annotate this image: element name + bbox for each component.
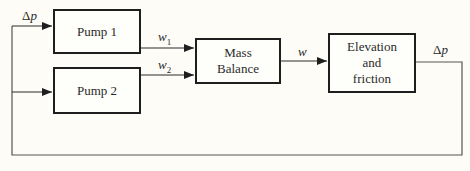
mass-balance-block: Mass Balance — [195, 38, 281, 84]
signal-w1: w1 — [158, 29, 171, 47]
signal-delta-p-out: Δp — [433, 42, 448, 58]
pump1-block: Pump 1 — [53, 9, 141, 54]
signal-w2: w2 — [158, 57, 171, 75]
signal-w: w — [298, 44, 307, 60]
elevation-friction-block: Elevation and friction — [328, 33, 416, 93]
elevation-friction-label: Elevation and friction — [347, 39, 397, 87]
pump2-label: Pump 2 — [77, 83, 117, 99]
pump1-label: Pump 1 — [77, 24, 117, 40]
mass-balance-label: Mass Balance — [217, 45, 259, 77]
pump2-block: Pump 2 — [53, 67, 141, 114]
signal-delta-p-in: Δp — [22, 8, 37, 24]
